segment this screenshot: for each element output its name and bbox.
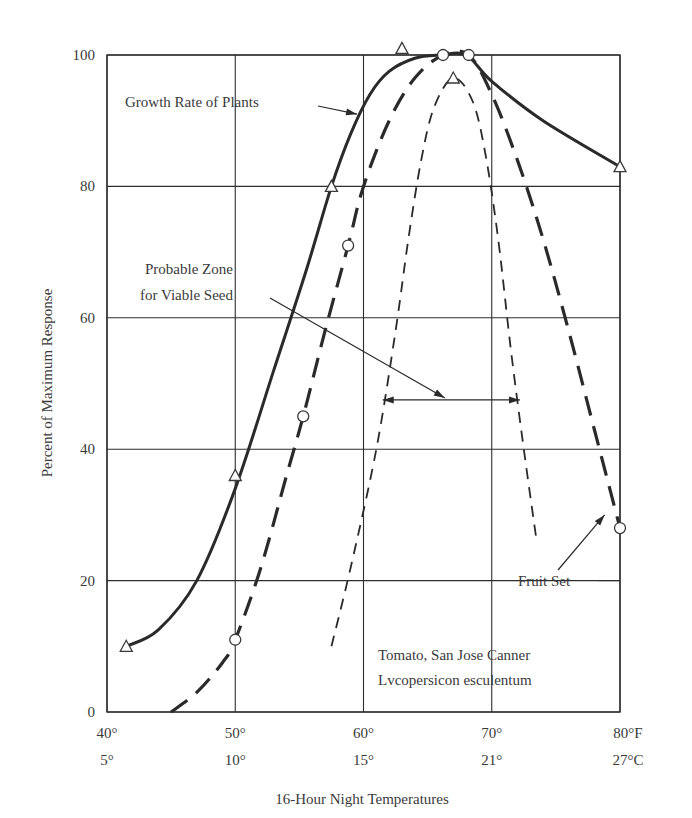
series-growth-rate-of-plants bbox=[126, 53, 620, 646]
grid: 02040608010040°50°60°70°80°F5°10°15°21°2… bbox=[73, 47, 644, 768]
series-probable-zone-for-viable-seed bbox=[331, 78, 536, 646]
circle-marker bbox=[438, 50, 449, 61]
y-tick-label: 60 bbox=[80, 310, 95, 326]
x-axis-title: 16-Hour Night Temperatures bbox=[275, 791, 449, 807]
series-layer bbox=[126, 51, 620, 712]
arrow-growth-rate-head bbox=[346, 108, 357, 115]
y-tick-label: 100 bbox=[73, 47, 96, 63]
marker-layer bbox=[120, 42, 626, 651]
x-tick-label-f: 80°F bbox=[613, 725, 642, 741]
x-tick-label-c: 5° bbox=[100, 752, 114, 768]
circle-marker bbox=[298, 411, 309, 422]
y-tick-label: 0 bbox=[88, 704, 96, 720]
x-tick-label-c: 27°C bbox=[612, 752, 643, 768]
x-tick-label-f: 40° bbox=[97, 725, 118, 741]
circle-marker bbox=[343, 240, 354, 251]
x-tick-label-f: 50° bbox=[225, 725, 246, 741]
triangle-marker bbox=[396, 42, 408, 53]
x-tick-label-f: 70° bbox=[481, 725, 502, 741]
circle-marker bbox=[615, 523, 626, 534]
label-fruit-set: Fruit Set bbox=[518, 573, 571, 589]
arrow-viable-seed bbox=[270, 298, 445, 398]
x-tick-label-c: 21° bbox=[481, 752, 502, 768]
chart: 02040608010040°50°60°70°80°F5°10°15°21°2… bbox=[0, 0, 692, 818]
y-tick-label: 20 bbox=[80, 573, 95, 589]
label-growth-rate: Growth Rate of Plants bbox=[125, 94, 259, 110]
x-tick-label-c: 10° bbox=[225, 752, 246, 768]
series-fruit-set bbox=[171, 51, 620, 712]
arrow-viable-seed-head bbox=[434, 389, 445, 397]
triangle-marker bbox=[447, 72, 459, 83]
label-zone-line1: Probable Zone bbox=[145, 261, 233, 277]
x-tick-label-f: 60° bbox=[353, 725, 374, 741]
circle-marker bbox=[463, 50, 474, 61]
circle-marker bbox=[230, 634, 241, 645]
triangle-marker bbox=[614, 161, 626, 172]
y-tick-label: 80 bbox=[80, 178, 95, 194]
label-species-line2: Lvcopersicon esculentum bbox=[378, 672, 532, 688]
label-zone-line2: for Viable Seed bbox=[140, 287, 233, 303]
label-species-line1: Tomato, San Jose Canner bbox=[378, 647, 530, 663]
x-tick-label-c: 15° bbox=[353, 752, 374, 768]
y-axis-title: Percent of Maximum Response bbox=[39, 288, 55, 477]
y-tick-label: 40 bbox=[80, 441, 95, 457]
